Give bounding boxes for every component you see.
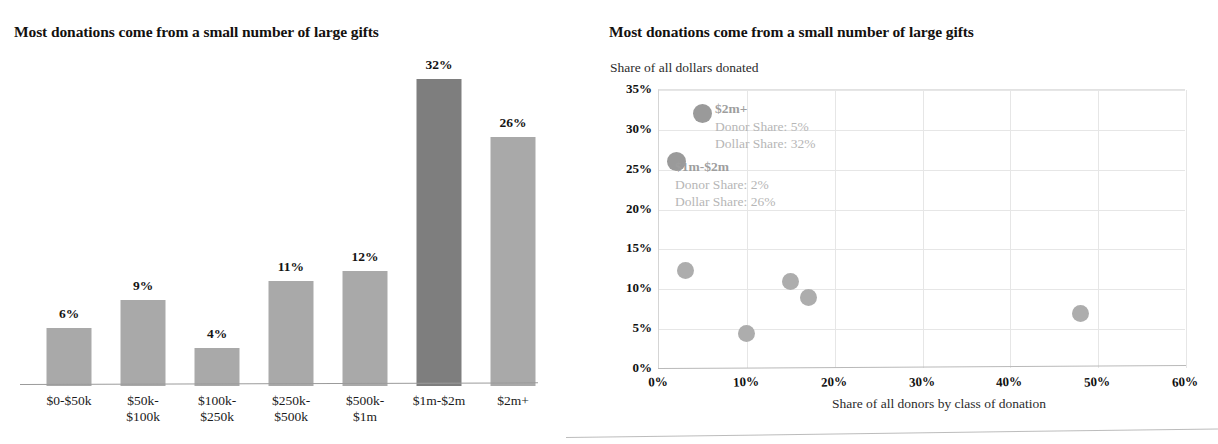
bar-category-label-line: $1m bbox=[321, 409, 409, 425]
bar-column[interactable]: 32% bbox=[402, 60, 476, 386]
annotation-2m-plus-donor-share: Donor Share: 5% bbox=[715, 118, 815, 136]
bar-chart-panel: Most donations come from a small number … bbox=[0, 0, 600, 444]
bar-value-label: 6% bbox=[59, 306, 79, 322]
bar-value-label: 26% bbox=[500, 115, 527, 131]
bar-rect[interactable] bbox=[269, 281, 314, 386]
scatter-y-tick: 25% bbox=[626, 161, 652, 177]
scatter-point[interactable] bbox=[800, 289, 817, 306]
scatter-gridline-horizontal bbox=[659, 249, 1185, 250]
bar-rect[interactable] bbox=[417, 79, 462, 386]
scatter-gridline-vertical bbox=[1098, 90, 1099, 368]
bar-column[interactable]: 12% bbox=[328, 60, 402, 386]
bar-value-label: 9% bbox=[133, 278, 153, 294]
bar-value-label: 12% bbox=[352, 249, 379, 265]
bar-chart-title: Most donations come from a small number … bbox=[14, 23, 379, 41]
scatter-x-tick: 60% bbox=[1172, 373, 1199, 390]
bar-category-label-line: $2m+ bbox=[469, 393, 557, 409]
scatter-gridline-vertical bbox=[1186, 90, 1187, 368]
bar-column[interactable]: 11% bbox=[254, 60, 328, 386]
scatter-x-tick: 30% bbox=[908, 373, 935, 390]
scatter-y-tick: 30% bbox=[626, 121, 652, 137]
bar-column[interactable]: 9% bbox=[106, 60, 180, 386]
scatter-y-tick: 35% bbox=[626, 81, 652, 97]
annotation-1m-2m: $1m-$2m Donor Share: 2% Dollar Share: 26… bbox=[675, 158, 775, 211]
scatter-point[interactable] bbox=[1072, 305, 1089, 322]
bar-value-label: 4% bbox=[207, 326, 227, 342]
scatter-gridline-vertical bbox=[1010, 90, 1011, 368]
bar-chart-plot-area: 6%9%4%11%12%32%26% bbox=[22, 60, 552, 386]
scatter-x-tick: 10% bbox=[732, 373, 759, 390]
scatter-y-tick: 15% bbox=[626, 240, 652, 256]
scatter-point[interactable] bbox=[738, 325, 755, 342]
annotation-2m-plus-dollar-share: Dollar Share: 32% bbox=[715, 135, 815, 153]
scatter-y-tick: 20% bbox=[626, 201, 652, 217]
scatter-point[interactable] bbox=[693, 104, 712, 123]
bar-rect[interactable] bbox=[195, 348, 240, 386]
scatter-gridline-horizontal bbox=[659, 289, 1185, 290]
bar-rect[interactable] bbox=[121, 300, 166, 386]
scatter-x-axis-label: Share of all donors by class of donation bbox=[600, 396, 1218, 412]
bar-value-label: 32% bbox=[426, 57, 453, 73]
scatter-x-tick-labels: 0%10%20%30%40%50%60% bbox=[658, 374, 1185, 398]
scatter-y-axis-label: Share of all dollars donated bbox=[610, 60, 758, 76]
bar-value-label: 11% bbox=[278, 259, 304, 275]
scatter-chart-panel: Most donations come from a small number … bbox=[600, 0, 1218, 444]
scatter-point[interactable] bbox=[677, 262, 694, 279]
scatter-x-tick: 40% bbox=[996, 373, 1023, 390]
scatter-x-tick: 20% bbox=[820, 373, 847, 390]
scatter-gridline-vertical bbox=[835, 90, 836, 368]
scatter-x-tick: 0% bbox=[648, 374, 668, 391]
annotation-2m-plus: $2m+ Donor Share: 5% Dollar Share: 32% bbox=[715, 100, 815, 153]
scatter-y-tick: 10% bbox=[626, 280, 652, 296]
scatter-y-tick: 5% bbox=[633, 320, 653, 336]
scatter-gridline-vertical bbox=[923, 90, 924, 368]
bar-column[interactable]: 26% bbox=[476, 60, 550, 386]
bar-category-label: $2m+ bbox=[469, 393, 557, 409]
annotation-2m-plus-head: $2m+ bbox=[715, 100, 815, 118]
scatter-chart-title: Most donations come from a small number … bbox=[609, 23, 974, 41]
bar-rect[interactable] bbox=[491, 137, 536, 386]
annotation-1m-2m-dollar-share: Dollar Share: 26% bbox=[675, 193, 775, 211]
annotation-1m-2m-head: $1m-$2m bbox=[675, 158, 775, 176]
bar-rect[interactable] bbox=[47, 328, 92, 386]
annotation-1m-2m-donor-share: Donor Share: 2% bbox=[675, 176, 775, 194]
bar-rect[interactable] bbox=[343, 271, 388, 386]
bar-column[interactable]: 6% bbox=[32, 60, 106, 386]
bar-column[interactable]: 4% bbox=[180, 60, 254, 386]
scatter-gridline-horizontal bbox=[659, 90, 1185, 91]
scatter-x-tick: 50% bbox=[1084, 373, 1111, 390]
scatter-y-tick-labels: 0%5%10%15%20%25%30%35% bbox=[600, 89, 652, 368]
scatter-point[interactable] bbox=[782, 273, 799, 290]
